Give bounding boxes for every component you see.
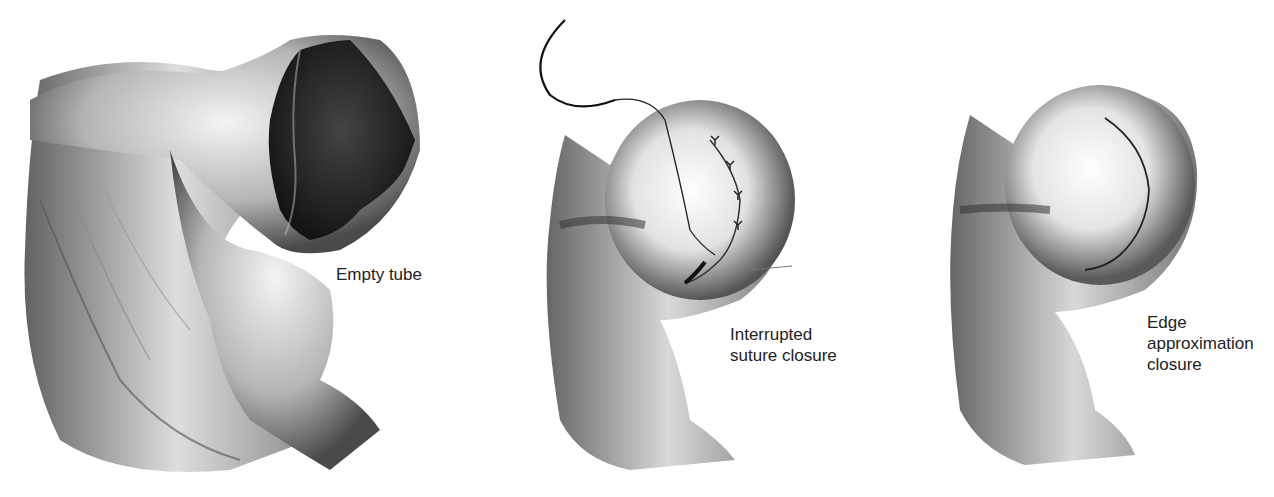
panel-empty-tube: Empty tube [0, 0, 460, 497]
interrupted-suture-illustration [520, 0, 880, 497]
label-empty-tube: Empty tube [336, 264, 422, 285]
label-interrupted-suture: Interrupted suture closure [730, 324, 837, 366]
panel-interrupted-suture: Interrupted suture closure [520, 0, 880, 497]
label-edge-approximation: Edge approximation closure [1147, 312, 1254, 375]
suture-needle [540, 20, 615, 106]
panel-edge-approximation: Edge approximation closure [935, 0, 1274, 497]
edge-approximation-illustration [935, 0, 1235, 497]
empty-tube-illustration [0, 0, 460, 497]
